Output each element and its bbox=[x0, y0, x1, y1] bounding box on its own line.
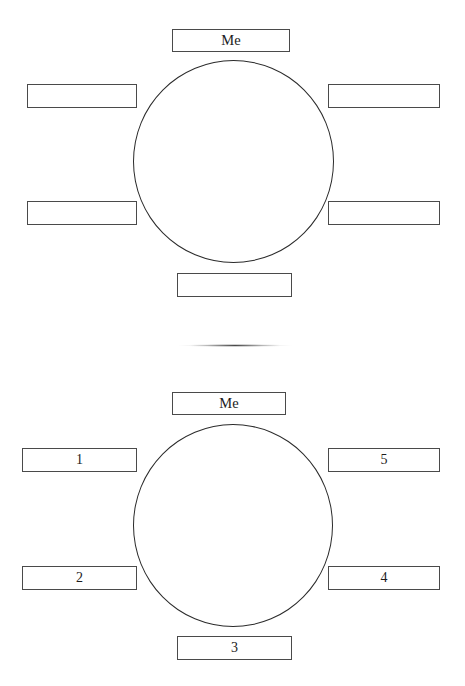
box-left-upper-blank[interactable] bbox=[27, 84, 137, 108]
section-separator-rule bbox=[178, 344, 292, 347]
box-left-lower-numbered[interactable]: 2 bbox=[22, 566, 137, 590]
worksheet-page: Me Me 1 5 2 4 3 bbox=[0, 0, 465, 686]
diagram-numbered: Me 1 5 2 4 3 bbox=[0, 356, 465, 686]
box-center-bottom-blank[interactable] bbox=[177, 273, 292, 297]
box-center-top-blank[interactable]: Me bbox=[172, 29, 290, 52]
box-right-lower-blank[interactable] bbox=[328, 201, 440, 225]
box-center-bottom-numbered[interactable]: 3 bbox=[177, 636, 292, 660]
box-right-upper-blank[interactable] bbox=[328, 84, 440, 108]
box-left-lower-blank[interactable] bbox=[27, 201, 137, 225]
center-circle-top bbox=[133, 60, 334, 263]
box-right-upper-numbered[interactable]: 5 bbox=[328, 448, 440, 472]
diagram-blank: Me bbox=[0, 0, 465, 330]
box-left-upper-numbered[interactable]: 1 bbox=[22, 448, 137, 472]
center-circle-bottom bbox=[133, 424, 333, 627]
box-right-lower-numbered[interactable]: 4 bbox=[328, 566, 440, 590]
box-center-top-numbered[interactable]: Me bbox=[172, 392, 286, 415]
